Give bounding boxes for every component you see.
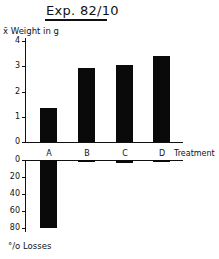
y-tick-label: 40: [2, 189, 20, 198]
category-label: B: [79, 149, 95, 158]
y-tick-label: 2: [2, 87, 20, 96]
loss-bar-c: [116, 160, 133, 163]
y-tick: [22, 194, 25, 195]
category-label: D: [154, 149, 170, 158]
y-tick: [22, 177, 25, 178]
y-tick-label: 20: [2, 172, 20, 181]
top-y-axis: [25, 38, 26, 143]
bar-b: [78, 68, 95, 142]
bar-d: [153, 56, 170, 142]
loss-bar-b: [78, 160, 95, 162]
chart-title: Exp. 82/10: [46, 3, 119, 18]
category-label: C: [117, 149, 133, 158]
x-axis-label: Treatment: [174, 149, 215, 158]
y-tick-label: 80: [2, 223, 20, 232]
bottom-y-axis: [25, 160, 26, 232]
y-tick-label: 0: [2, 137, 20, 146]
loss-bar-d: [153, 160, 170, 162]
bar-a: [40, 108, 57, 142]
loss-bar-a: [40, 160, 57, 228]
y-tick-label: 4: [2, 36, 20, 45]
bar-c: [116, 65, 133, 142]
top-y-axis-label: x̄ Weight in g: [3, 26, 59, 36]
bottom-y-axis-label: °/o Losses: [8, 241, 51, 251]
category-label: A: [41, 149, 57, 158]
y-tick: [22, 41, 25, 42]
y-tick-label: 60: [2, 206, 20, 215]
y-tick: [22, 66, 25, 67]
y-tick: [22, 142, 25, 143]
y-tick-label: 1: [2, 112, 20, 121]
y-tick: [22, 211, 25, 212]
y-tick: [22, 117, 25, 118]
y-tick-label: 0: [2, 155, 20, 164]
y-tick-label: 3: [2, 61, 20, 70]
title-underline: [45, 19, 107, 21]
y-tick: [22, 160, 25, 161]
y-tick: [22, 228, 25, 229]
top-x-axis: [25, 142, 183, 143]
y-tick: [22, 92, 25, 93]
